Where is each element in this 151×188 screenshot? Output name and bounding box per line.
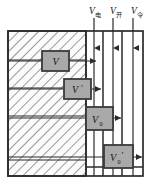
diagram-canvas: V V ′ V 0 V 0 ′ V 电 V 开 (0, 0, 151, 188)
channel-label-3: V 令 (131, 6, 144, 19)
box-v0-prime[interactable]: V 0 ′ (104, 145, 133, 168)
schematic-figure: V V ′ V 0 V 0 ′ V 电 V 开 (0, 0, 151, 188)
box-v-prime[interactable]: V ′ (64, 79, 91, 99)
channel-label-2-subscript: 开 (116, 11, 122, 19)
top-channel-labels: V 电 V 开 V 令 (89, 6, 144, 19)
channel-label-1-subscript: 电 (95, 11, 101, 18)
channel-label-3-subscript: 令 (137, 11, 144, 19)
box-v0-subscript: 0 (100, 120, 103, 127)
channel-label-1: V 电 (89, 6, 101, 18)
box-v0[interactable]: V 0 (86, 107, 113, 130)
channel-label-2: V 开 (110, 6, 122, 19)
box-v[interactable]: V (42, 51, 69, 71)
